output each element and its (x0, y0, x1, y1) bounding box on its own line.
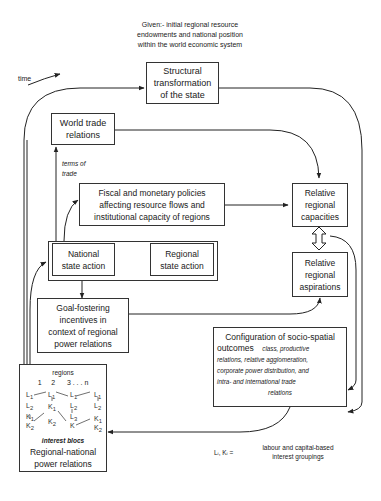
structural-line-2: transformation (154, 77, 212, 89)
relative-aspirations-box[interactable]: Relative regional aspirations (292, 252, 348, 297)
goal-line-1: Goal-fostering (56, 302, 109, 314)
fiscal-policies-box[interactable]: Fiscal and monetary policies affecting r… (79, 183, 225, 226)
capacities-line-1: Relative (305, 187, 336, 199)
goal-line-3: context of regional (48, 326, 117, 338)
given-note: Given:- initial regional resource endowm… (120, 20, 260, 50)
configuration-outcomes-box[interactable]: Configuration of socio-spatial outcomes … (213, 327, 347, 407)
terms-line-1: terms of (62, 159, 85, 169)
interest-blocs-label: interest blocs (20, 437, 106, 444)
goal-line-4: power relations (54, 338, 112, 350)
world-trade-line-1: World trade (60, 117, 106, 129)
capacities-line-2: regional (305, 199, 335, 211)
regional-state-line-1: Regional (165, 248, 199, 260)
regions-label: regions (20, 369, 106, 376)
fiscal-line-2: affecting resource flows and (99, 199, 205, 211)
national-line-1: National (68, 248, 99, 260)
legend-text: labour and capital-based interest groupi… (250, 443, 346, 461)
relative-capacities-box[interactable]: Relative regional capacities (292, 183, 348, 227)
fiscal-line-1: Fiscal and monetary policies (98, 187, 205, 199)
config-detail-1: class, productive (262, 345, 309, 352)
regional-national-line-2: power relations (20, 459, 106, 469)
regional-national-box[interactable]: regions 1 2 3 . . . n L1 L2 K1 K2 L1 K1 … (19, 364, 107, 472)
legend-line-2: interest groupings (250, 452, 346, 461)
terms-of-trade-label: terms of trade (62, 159, 85, 179)
aspirations-line-2: regional (305, 269, 335, 281)
terms-line-2: trade (62, 169, 85, 179)
world-trade-line-2: relations (66, 129, 100, 141)
capacities-line-3: capacities (301, 211, 339, 223)
region-numbers: 1 2 3 . . . n (20, 379, 106, 386)
structural-line-3: of the state (160, 89, 205, 101)
regional-national-line-1: Regional-national (20, 447, 106, 457)
config-detail-4: intra- and international trade (217, 376, 343, 387)
config-detail-2: relations, relative agglomeration, (217, 354, 343, 365)
goal-fostering-box[interactable]: Goal-fostering incentives in context of … (37, 298, 129, 353)
given-line-1: Given:- initial regional resource (120, 20, 260, 30)
config-detail-5: relations (217, 387, 343, 398)
time-label: time (18, 74, 31, 84)
national-state-action-box[interactable]: National state action (52, 243, 115, 276)
legend-line-1: labour and capital-based (250, 443, 346, 452)
regional-state-action-box[interactable]: Regional state action (150, 243, 214, 276)
structural-transformation-box[interactable]: Structural transformation of the state (146, 62, 219, 104)
config-detail-3: corporate power distribution, and (217, 365, 343, 376)
config-title: Configuration of socio-spatial (217, 332, 343, 343)
goal-line-2: incentives in (60, 314, 107, 326)
config-title-2: outcomes (217, 343, 254, 353)
aspirations-line-3: aspirations (299, 281, 340, 293)
structural-line-1: Structural (163, 65, 202, 77)
given-line-2: endowments and national position (120, 30, 260, 40)
given-line-3: within the world economic system (120, 40, 260, 50)
legend-symbol: Lᵢ, Kᵢ = (214, 448, 233, 457)
fiscal-line-3: institutional capacity of regions (94, 211, 210, 223)
national-line-2: state action (62, 260, 105, 272)
world-trade-box[interactable]: World trade relations (51, 113, 115, 145)
regional-state-line-2: state action (160, 260, 203, 272)
aspirations-line-1: Relative (305, 257, 336, 269)
config-row-2: outcomes class, productive (217, 343, 343, 354)
